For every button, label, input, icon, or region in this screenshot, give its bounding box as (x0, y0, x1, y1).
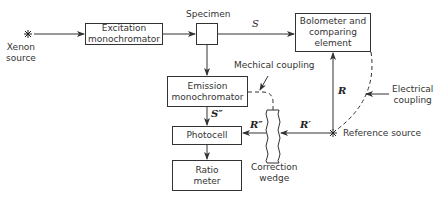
specimen-label: Specimen (186, 9, 230, 20)
mechanical-coupling-label: Mechical coupling (234, 60, 315, 71)
signal-s: S (252, 18, 259, 29)
photocell-box: Photocell (172, 126, 242, 145)
bolometer-box: Bolometer and comparing element (295, 13, 371, 52)
xenon-star-icon (24, 30, 32, 38)
emission-label: Emission monochromator (168, 81, 247, 103)
signal-r-double-prime: R″ (250, 119, 263, 130)
photocell-label: Photocell (186, 130, 227, 141)
bolometer-label: Bolometer and comparing element (296, 16, 370, 49)
electrical-label-line1: Electrical (392, 84, 433, 95)
ratio-meter-box: Ratio meter (172, 160, 242, 191)
spectrofluorometer-diagram: Xenon source Excitation monochromator Sp… (0, 0, 446, 200)
signal-r-prime: R′ (300, 119, 311, 130)
reference-star-icon (329, 129, 337, 137)
electrical-coupling-label: Electrical coupling (392, 84, 433, 106)
specimen-box (196, 23, 218, 45)
electrical-label-line2: coupling (392, 95, 433, 106)
xenon-label-line1: Xenon (6, 42, 36, 53)
excitation-label: Excitation monochromator (86, 23, 162, 45)
signal-s-double-prime: S″ (211, 108, 223, 119)
excitation-monochromator-box: Excitation monochromator (85, 23, 163, 45)
xenon-source-label: Xenon source (6, 42, 36, 64)
wedge-label-line2: wedge (251, 173, 298, 184)
wedge-label-line1: Correction (251, 162, 298, 173)
xenon-label-line2: source (6, 53, 36, 64)
emission-monochromator-box: Emission monochromator (167, 76, 248, 107)
reference-source-label: Reference source (343, 128, 421, 139)
signal-r: R (338, 85, 346, 96)
correction-wedge-label: Correction wedge (251, 162, 298, 184)
ratio-meter-label: Ratio meter (187, 165, 227, 187)
